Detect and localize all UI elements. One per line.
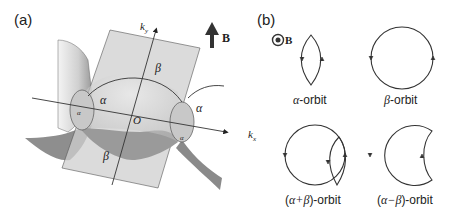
open-orbit-right: [188, 86, 224, 99]
alpha-orbit-caption: α-orbit: [293, 93, 327, 107]
alpha-pocket-left: [70, 90, 94, 130]
figure-canvas: (a) B ky kx O α α: [0, 0, 460, 221]
alpha-small-left: α: [77, 109, 81, 117]
panel-a: (a) B ky kx O α α: [14, 11, 257, 190]
magnetic-field-arrow: [205, 22, 219, 48]
panel-b: (b) B α-orbit β-orbit (α+β)-o: [257, 11, 435, 207]
beta-orbit-caption: β-orbit: [383, 93, 418, 107]
alpha-minus-beta-orbit-shape: [368, 125, 432, 185]
alpha-label-right: α: [196, 101, 203, 115]
beta-label-bottom: β: [102, 149, 109, 163]
field-label-b: B: [222, 31, 230, 45]
alpha-small-right: α: [180, 134, 184, 142]
panel-b-label: (b): [257, 11, 275, 28]
field-label-b-panel: B: [285, 34, 293, 46]
alpha-label-left: α: [100, 93, 107, 107]
kx-label: kx: [248, 128, 257, 143]
ky-label: ky: [140, 20, 149, 35]
alpha-minus-beta-orbit-caption: (α−β)-orbit: [377, 193, 433, 207]
alpha-plus-beta-orbit-shape: [283, 125, 347, 185]
field-out-of-plane-icon: [273, 35, 284, 46]
beta-orbit-shape: [369, 27, 435, 89]
panel-a-label: (a): [14, 11, 32, 28]
beta-label-top: β: [154, 61, 161, 75]
alpha-plus-beta-orbit-caption: (α+β)-orbit: [285, 193, 341, 207]
alpha-orbit-shape: [300, 35, 324, 85]
right-fermi-surface-wing: [176, 140, 222, 190]
origin-label: O: [133, 114, 141, 126]
